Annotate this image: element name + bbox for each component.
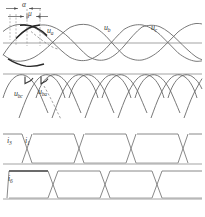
label-i6: i6: [8, 175, 13, 183]
label-i6-sub: 6: [10, 178, 13, 184]
label-uc: uc: [151, 24, 157, 32]
panel-line-voltages-group: [3, 74, 202, 120]
label-ubc: ubc: [14, 90, 23, 98]
label-uba-sub: ba: [42, 91, 47, 97]
wave-uc: [3, 23, 202, 61]
label-uba: uba: [38, 88, 47, 96]
label-ubc-sub: bc: [18, 93, 23, 99]
label-ub-sub: b: [108, 27, 111, 33]
waveform-figure: α μ ua ub uc ubc uba i3 i1 i6: [0, 0, 205, 217]
panel-currents-i3-i1-group: [3, 134, 202, 164]
wave-ua: [3, 25, 202, 60]
alpha-label: α: [22, 1, 26, 9]
mu-label: μ: [28, 10, 32, 18]
current-pulse-set-i3-i1: [3, 134, 202, 163]
label-i1: i1: [25, 137, 30, 145]
label-i1-sub: 1: [27, 140, 30, 146]
label-ua-sub: a: [51, 30, 54, 36]
waveform-canvas: [0, 0, 205, 217]
current-pulse-set-i6: [7, 171, 202, 198]
label-i3-sub: 3: [9, 140, 12, 146]
label-uc-sub: c: [155, 27, 157, 33]
label-ub: ub: [104, 24, 111, 32]
panel-phase-voltages-group: [3, 7, 202, 66]
panel-current-i6-group: [3, 171, 202, 199]
label-i3: i3: [7, 137, 12, 145]
label-ua: ua: [47, 27, 54, 35]
rectified-arch-set: [3, 75, 202, 118]
